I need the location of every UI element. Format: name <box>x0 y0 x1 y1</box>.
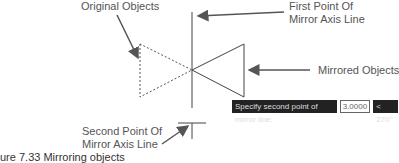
arrow-original <box>117 15 138 58</box>
distance-input[interactable]: 3.0000 <box>340 100 370 113</box>
original-triangle <box>140 44 192 97</box>
angle-input[interactable]: < 270° <box>373 100 398 113</box>
mirrored-triangle <box>192 44 244 97</box>
dynamic-input-tooltip: Specify second point of mirror line: 3.0… <box>232 100 398 113</box>
label-first-point-1: First Point Of <box>289 0 353 13</box>
arrow-first-point <box>198 12 284 16</box>
command-prompt: Specify second point of mirror line: <box>232 100 337 113</box>
label-original-objects: Original Objects <box>81 0 159 13</box>
arrow-second-point <box>162 126 188 144</box>
figure-caption: ure 7.33 Mirroring objects <box>0 151 125 163</box>
label-mirrored-objects: Mirrored Objects <box>318 64 399 77</box>
label-second-point-2: Mirror Axis Line <box>82 138 158 151</box>
label-second-point-1: Second Point Of <box>82 125 162 138</box>
label-first-point-2: Mirror Axis Line <box>289 13 365 26</box>
